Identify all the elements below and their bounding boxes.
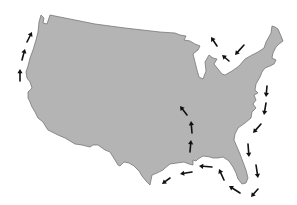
arrow-icon <box>255 165 260 178</box>
arrow-head <box>180 171 185 176</box>
arrow-shaft <box>184 172 192 173</box>
us-landmass <box>26 15 283 185</box>
arrow-icon <box>222 55 229 61</box>
arrow-head <box>21 49 26 54</box>
arrow-shaft <box>191 125 192 133</box>
arrow-icon <box>162 178 170 184</box>
arrow-shaft <box>248 144 249 153</box>
arrow-shaft <box>254 189 258 194</box>
arrow-shaft <box>266 86 267 93</box>
arrow-icon <box>17 69 22 81</box>
arrow-shaft <box>225 58 229 61</box>
arrow-icon <box>253 124 261 133</box>
arrow-shaft <box>256 124 261 130</box>
arrow-head <box>17 69 22 73</box>
arrow-head <box>246 153 251 157</box>
arrow-head <box>199 164 203 169</box>
arrow-icon <box>218 169 224 180</box>
arrow-icon <box>21 49 26 60</box>
arrow-shaft <box>190 144 191 152</box>
arrow-icon <box>199 164 212 169</box>
arrow-icon <box>180 171 192 176</box>
arrow-shaft <box>165 178 170 181</box>
arrow-shaft <box>221 173 224 180</box>
arrow-icon <box>262 103 267 115</box>
us-map <box>0 0 297 205</box>
arrow-head <box>262 110 267 115</box>
arrow-shaft <box>238 45 244 52</box>
arrow-shaft <box>27 36 30 42</box>
arrow-head <box>264 93 269 97</box>
arrow-head <box>255 173 260 178</box>
map-canvas <box>0 0 297 205</box>
arrow-shaft <box>256 165 257 174</box>
arrow-shaft <box>213 40 217 46</box>
arrow-icon <box>264 86 269 97</box>
arrow-icon <box>229 186 240 193</box>
arrow-shaft <box>22 53 24 60</box>
arrow-icon <box>211 37 217 46</box>
arrow-shaft <box>203 166 212 167</box>
arrow-icon <box>251 189 258 197</box>
arrow-icon <box>27 32 32 42</box>
arrow-icon <box>235 45 244 55</box>
arrow-shaft <box>265 103 266 111</box>
arrow-shaft <box>233 188 240 193</box>
arrow-icon <box>246 144 251 157</box>
